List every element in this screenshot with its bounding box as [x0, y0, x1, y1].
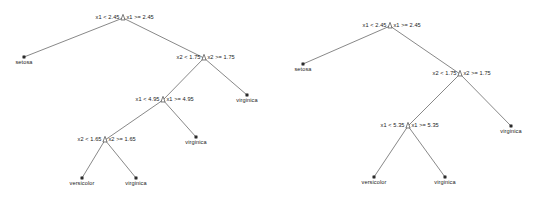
tree-edge: [105, 140, 136, 178]
tree-edge: [408, 74, 460, 126]
leaf-virginica-label: virginica: [236, 98, 257, 104]
split-x2-1.75-right-label: x2 >= 1.75: [207, 55, 234, 61]
leaf-virginica-label: virginica: [500, 129, 521, 135]
split-x2-1.75-left-label: x2 < 1.75: [433, 71, 457, 77]
tree-edge: [123, 18, 204, 58]
leaf-setosa-label: setosa: [15, 60, 32, 66]
split-x1-4.95-right-label: x1 >= 4.95: [166, 97, 193, 103]
leaf-virginica-label: virginica: [434, 180, 455, 186]
tree-edge: [204, 58, 247, 95]
leaf-setosa-label: setosa: [294, 67, 311, 73]
split-x1-2.45-right-label: x1 >= 2.45: [126, 15, 153, 21]
leaf-versicolor-label: versicolor: [70, 181, 95, 187]
split-node-marker[interactable]: [121, 14, 125, 20]
split-node-marker[interactable]: [406, 122, 410, 128]
tree-edge: [82, 140, 105, 178]
split-x1-5.35-right-label: x1 >= 5.35: [411, 123, 438, 129]
split-x1-5.35-left-label: x1 < 5.35: [381, 123, 405, 129]
tree-edge: [374, 126, 408, 177]
split-node-marker[interactable]: [388, 22, 392, 28]
split-x2-1.65-left-label: x2 < 1.65: [78, 137, 102, 143]
split-x1-2.45-right-label: x1 >= 2.45: [393, 23, 420, 29]
tree-edge: [390, 26, 460, 74]
tree-edge: [303, 26, 390, 64]
tree-edge: [460, 74, 511, 126]
tree-edge: [163, 100, 196, 137]
split-x1-2.45-left-label: x1 < 2.45: [363, 23, 387, 29]
tree-edge: [105, 100, 163, 140]
tree-edge: [24, 18, 123, 57]
leaf-versicolor-label: versicolor: [362, 180, 387, 186]
split-x1-2.45-left-label: x1 < 2.45: [96, 15, 120, 21]
split-x2-1.75-right-label: x2 >= 1.75: [463, 71, 490, 77]
tree-edge: [163, 58, 204, 100]
decision-tree-figure: x1 < 2.45x1 >= 2.45x2 < 1.75x2 >= 1.75x1…: [0, 0, 542, 198]
leaf-virginica-label: virginica: [185, 140, 206, 146]
split-node-marker[interactable]: [161, 96, 165, 102]
split-x2-1.65-right-label: x2 >= 1.65: [108, 137, 135, 143]
leaf-virginica-label: virginica: [125, 181, 146, 187]
split-x1-4.95-left-label: x1 < 4.95: [136, 97, 160, 103]
split-x2-1.75-left-label: x2 < 1.75: [177, 55, 201, 61]
tree-edges-layer: [0, 0, 542, 198]
tree-edge: [408, 126, 445, 177]
